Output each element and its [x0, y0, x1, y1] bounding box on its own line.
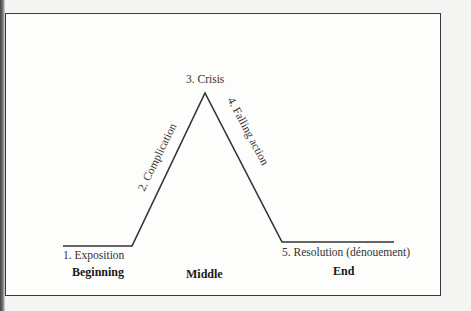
- plot-line: [63, 93, 394, 246]
- stage-resolution-label: 5. Resolution (dénouement): [282, 246, 410, 258]
- phase-beginning-label: Beginning: [72, 265, 124, 280]
- phase-end-label: End: [333, 264, 354, 279]
- plot-line-diagram: [0, 0, 471, 311]
- stage-crisis-label: 3. Crisis: [186, 73, 224, 85]
- phase-middle-label: Middle: [186, 267, 223, 282]
- stage-exposition-label: 1. Exposition: [63, 249, 124, 261]
